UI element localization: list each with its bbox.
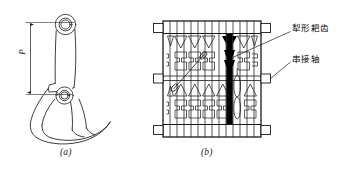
annotation-label-shaft: 串接轴 xyxy=(292,55,320,64)
upper-eyelet xyxy=(55,14,75,34)
figure-root: P 犁形耙齿 串接轴 (a) (b) xyxy=(0,0,345,171)
right-mounting-tabs xyxy=(261,24,271,135)
caption-panel-a: (a) xyxy=(60,147,72,157)
left-mounting-tabs xyxy=(154,24,164,135)
annotation-label-teeth: 犁形耙齿 xyxy=(292,24,329,33)
upper-tooth-heads xyxy=(168,36,258,48)
caption-panel-b: (b) xyxy=(201,147,213,157)
plow-blade xyxy=(30,89,110,144)
panel-a-group xyxy=(26,14,110,144)
panel-b-group xyxy=(154,21,271,137)
lower-clip-details xyxy=(167,100,257,118)
dimension-label-p: P xyxy=(17,49,27,55)
dimension-extension-lines xyxy=(26,23,74,95)
tooth-shank xyxy=(55,29,76,87)
leader-line-shaft xyxy=(271,62,291,79)
blade-stem xyxy=(71,99,87,130)
